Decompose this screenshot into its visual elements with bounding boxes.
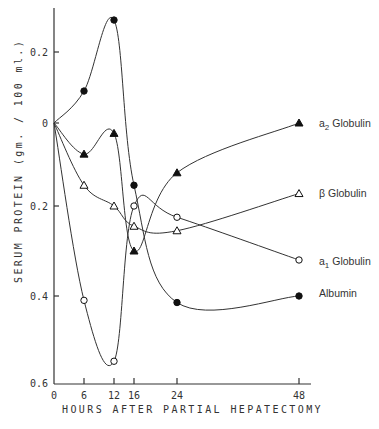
- y-tick-label: 0.4: [30, 291, 48, 302]
- filled-circle-marker: [174, 299, 180, 305]
- y-axis-title: SERUM PROTEIN (gm. / 100 ml.): [13, 39, 24, 283]
- data-markers: [80, 17, 303, 365]
- filled-circle-marker: [111, 17, 117, 23]
- y-tick-label: 0.2: [30, 201, 48, 212]
- x-tick-label: 16: [128, 390, 140, 401]
- axes: [54, 8, 311, 384]
- open-circle-marker: [174, 214, 180, 220]
- legend-label-2: a1 Globulin: [319, 255, 371, 270]
- series-line-2: [54, 123, 299, 366]
- legend-label-3: Albumin: [319, 287, 357, 299]
- open-circle-marker: [81, 297, 87, 303]
- filled-circle-marker: [81, 88, 87, 94]
- legend-label-1: β Globulin: [319, 187, 367, 199]
- x-ticks: 0612162448: [51, 378, 305, 401]
- open-triangle-marker: [130, 222, 138, 229]
- y-tick-label: 0: [42, 118, 48, 129]
- filled-triangle-marker: [173, 169, 181, 176]
- y-tick-label: 0.6: [30, 378, 48, 389]
- open-triangle-marker: [110, 202, 118, 209]
- data-series: [54, 17, 299, 365]
- filled-circle-marker: [296, 293, 302, 299]
- x-tick-label: 48: [293, 390, 305, 401]
- open-triangle-marker: [80, 181, 88, 188]
- filled-triangle-marker: [295, 119, 303, 126]
- x-tick-label: 0: [51, 390, 57, 401]
- open-circle-marker: [111, 358, 117, 364]
- filled-triangle-marker: [110, 129, 118, 136]
- y-tick-label: 0.2: [30, 47, 48, 58]
- chart: 0.200.20.40.6 0612162448 a2 Globulinβ Gl…: [0, 0, 379, 429]
- y-ticks: 0.200.20.40.6: [30, 47, 59, 389]
- x-axis-title: HOURS AFTER PARTIAL HEPATECTOMY: [62, 404, 323, 415]
- open-circle-marker: [296, 257, 302, 263]
- filled-circle-marker: [131, 182, 137, 188]
- legend: a2 Globulinβ Globulina1 GlobulinAlbumin: [319, 117, 371, 299]
- series-line-3: [54, 17, 299, 310]
- x-tick-label: 24: [171, 390, 183, 401]
- legend-label-0: a2 Globulin: [319, 117, 371, 132]
- open-triangle-marker: [295, 190, 303, 197]
- x-tick-label: 6: [81, 390, 87, 401]
- open-circle-marker: [131, 203, 137, 209]
- x-tick-label: 12: [108, 390, 120, 401]
